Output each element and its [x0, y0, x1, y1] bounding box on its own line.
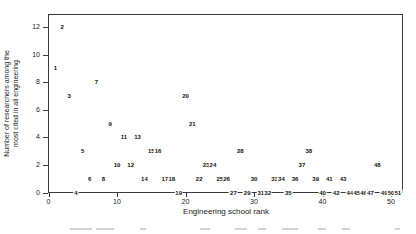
cropped-caption-fragment: [342, 228, 350, 230]
data-point-rank-26: 26: [222, 175, 231, 182]
data-point-rank-48: 48: [373, 161, 382, 168]
y-tick-mark: [43, 110, 48, 111]
data-point-rank-6: 6: [87, 175, 92, 182]
data-point-rank-13: 13: [133, 134, 142, 141]
x-tick-label: 40: [313, 198, 333, 206]
cropped-caption-fragment: [235, 228, 247, 230]
data-point-rank-18: 18: [167, 175, 176, 182]
data-point-rank-5: 5: [80, 148, 85, 155]
x-tick-label: 10: [107, 198, 127, 206]
data-point-rank-37: 37: [298, 161, 307, 168]
x-tick-mark: [254, 193, 255, 197]
x-tick-mark: [117, 193, 118, 197]
x-axis-title: Engineering school rank: [126, 207, 326, 216]
data-point-rank-39: 39: [311, 175, 320, 182]
cropped-caption-fragment: [96, 228, 114, 230]
data-point-rank-22: 22: [195, 175, 204, 182]
cropped-caption-fragment: [318, 228, 326, 230]
y-tick-mark: [43, 193, 48, 194]
data-point-rank-11: 11: [120, 134, 128, 141]
data-point-rank-29: 29: [243, 189, 252, 196]
y-tick-label: 4: [18, 133, 40, 141]
data-point-rank-43: 43: [339, 175, 348, 182]
data-point-rank-27: 27: [229, 189, 238, 196]
data-point-rank-41: 41: [325, 175, 334, 182]
data-point-rank-1: 1: [53, 65, 58, 72]
data-point-rank-24: 24: [209, 161, 218, 168]
x-tick-mark: [49, 193, 50, 197]
y-tick-label: 10: [18, 51, 40, 59]
data-point-rank-16: 16: [154, 148, 163, 155]
x-tick-label: 50: [381, 198, 401, 206]
data-point-rank-30: 30: [250, 175, 259, 182]
x-tick-label: 30: [244, 198, 264, 206]
data-point-rank-20: 20: [181, 92, 190, 99]
data-point-rank-32: 32: [263, 189, 272, 196]
cropped-caption-fragment: [395, 228, 400, 230]
x-tick-label: 20: [176, 198, 196, 206]
figure-canvas: Number of researchers among the most cit…: [0, 0, 416, 234]
data-point-rank-3: 3: [66, 92, 71, 99]
y-tick-mark: [43, 55, 48, 56]
cropped-caption-fragment: [200, 228, 210, 230]
data-point-rank-10: 10: [113, 161, 122, 168]
data-point-rank-38: 38: [304, 148, 313, 155]
data-point-rank-51: 51: [394, 189, 403, 196]
cropped-caption-fragment: [70, 228, 92, 230]
y-tick-mark: [43, 165, 48, 166]
y-tick-label: 6: [18, 106, 40, 114]
cropped-caption-fragment: [258, 228, 266, 230]
data-point-rank-19: 19: [174, 189, 183, 196]
cropped-caption-fragment: [282, 228, 298, 230]
data-point-rank-47: 47: [366, 189, 375, 196]
data-point-rank-8: 8: [101, 175, 106, 182]
y-tick-label: 2: [18, 161, 40, 169]
x-tick-label: 0: [39, 198, 59, 206]
data-point-rank-42: 42: [332, 189, 341, 196]
data-point-rank-21: 21: [188, 120, 197, 127]
data-point-rank-9: 9: [107, 120, 112, 127]
y-tick-label: 12: [18, 23, 40, 31]
y-axis-title: Number of researchers among the most cit…: [3, 14, 20, 194]
y-tick-mark: [43, 82, 48, 83]
y-axis-title-line1: Number of researchers among the: [3, 14, 12, 194]
y-tick-label: 8: [18, 78, 40, 86]
data-point-rank-34: 34: [277, 175, 286, 182]
data-point-rank-2: 2: [60, 23, 65, 30]
data-point-rank-35: 35: [284, 189, 293, 196]
data-point-rank-12: 12: [126, 161, 135, 168]
data-point-rank-7: 7: [94, 79, 99, 86]
y-tick-label: 0: [18, 189, 40, 197]
data-point-rank-28: 28: [236, 148, 245, 155]
data-point-rank-14: 14: [140, 175, 149, 182]
data-point-rank-40: 40: [318, 189, 327, 196]
plot-frame: [48, 14, 403, 193]
cropped-caption-fragment: [140, 228, 146, 230]
y-tick-mark: [43, 27, 48, 28]
data-point-rank-4: 4: [73, 189, 78, 196]
data-point-rank-36: 36: [291, 175, 300, 182]
x-tick-mark: [186, 193, 187, 197]
y-tick-mark: [43, 137, 48, 138]
